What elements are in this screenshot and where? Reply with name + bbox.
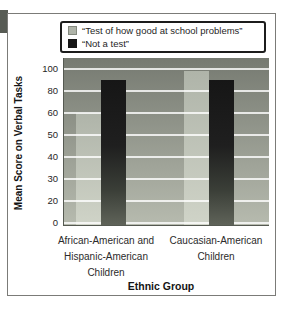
gridline-40 xyxy=(63,156,269,158)
x-category-label: Caucasian-AmericanChildren xyxy=(146,233,286,265)
legend-swatch-test xyxy=(68,26,77,35)
figure-card: “Test of how good at school problems”“No… xyxy=(7,13,276,296)
bar-test-group2 xyxy=(184,71,209,226)
y-tick-label: 100 xyxy=(10,63,58,75)
gridline-30 xyxy=(63,178,269,180)
x-category-line: Caucasian-American xyxy=(146,233,286,249)
y-axis-line xyxy=(63,58,64,226)
gridline-80 xyxy=(63,90,269,92)
y-tick-label: 60 xyxy=(10,107,58,119)
x-axis-title: Ethnic Group xyxy=(58,280,264,292)
y-tick-label: 20 xyxy=(10,195,58,207)
y-tick-label: 50 xyxy=(10,129,58,141)
x-category-line: Children xyxy=(146,249,286,265)
legend-swatch-not_a_test xyxy=(68,39,77,48)
y-tick-label: 40 xyxy=(10,151,58,163)
chart-legend: “Test of how good at school problems”“No… xyxy=(60,21,266,53)
gridline-100 xyxy=(63,68,269,70)
y-tick-label: 0 xyxy=(10,217,58,229)
gridline-50 xyxy=(63,134,269,136)
x-category-line: Children xyxy=(36,265,176,281)
bar-not_a_test-group1 xyxy=(101,80,126,226)
page-background: “Test of how good at school problems”“No… xyxy=(0,0,288,312)
legend-label: “Test of how good at school problems” xyxy=(82,25,243,36)
y-tick-label: 80 xyxy=(10,85,58,97)
legend-item: “Not a test” xyxy=(68,38,258,49)
gridline-20 xyxy=(63,200,269,202)
gridline-60 xyxy=(63,112,269,114)
x-axis-line xyxy=(63,225,269,227)
plot-area xyxy=(63,58,269,226)
bar-not_a_test-group2 xyxy=(209,80,234,226)
bar-test-group1 xyxy=(76,113,101,226)
legend-label: “Not a test” xyxy=(82,38,129,49)
y-tick-label: 30 xyxy=(10,173,58,185)
legend-item: “Test of how good at school problems” xyxy=(68,25,258,36)
